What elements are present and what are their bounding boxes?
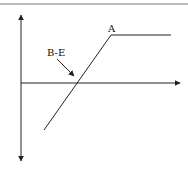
break-even-pointer-arrow xyxy=(57,59,74,76)
label-break-even: B-E xyxy=(47,47,65,58)
payoff-diagram: A B-E xyxy=(0,0,188,173)
label-a: A xyxy=(107,23,116,34)
